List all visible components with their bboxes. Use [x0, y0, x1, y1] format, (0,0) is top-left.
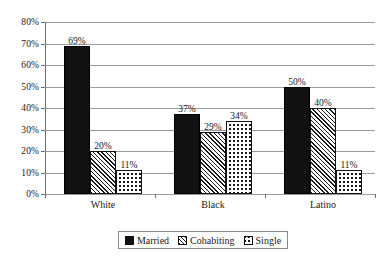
x-axis-tick-mark — [155, 194, 156, 198]
solid-black-swatch — [125, 236, 134, 245]
bar-black-single: 34% — [226, 121, 252, 194]
bar-value-label: 11% — [120, 160, 137, 170]
legend-label-single: Single — [256, 235, 282, 246]
y-axis-tick-label: 80% — [21, 17, 39, 27]
legend-label-cohabiting: Cohabiting — [190, 235, 234, 246]
y-axis-tick-mark — [41, 44, 45, 45]
x-axis-label-latino: Latino — [310, 199, 336, 210]
legend-item-cohabiting: Cohabiting — [178, 235, 234, 246]
y-axis-tick-mark — [41, 173, 45, 174]
bar-value-label: 40% — [314, 98, 331, 108]
legend-label-married: Married — [137, 235, 169, 246]
y-axis-tick-label: 50% — [21, 82, 39, 92]
gridline — [45, 194, 375, 195]
bar-white-cohabiting: 20% — [90, 151, 116, 194]
bar-chart: 0%10%20%30%40%50%60%70%80%69%20%11%37%29… — [0, 0, 392, 259]
bar-black-married: 37% — [174, 114, 200, 194]
legend-item-single: Single — [244, 235, 282, 246]
bar-black-cohabiting: 29% — [200, 132, 226, 194]
plot-area: 0%10%20%30%40%50%60%70%80%69%20%11%37%29… — [45, 22, 375, 194]
x-axis-tick-mark — [45, 194, 46, 198]
y-axis-tick-mark — [41, 65, 45, 66]
legend-item-married: Married — [125, 235, 169, 246]
bar-value-label: 11% — [340, 160, 357, 170]
y-axis-tick-label: 10% — [21, 168, 39, 178]
bar-value-label: 34% — [230, 111, 247, 121]
bar-group-latino: 50%40%11% — [284, 22, 362, 194]
diagonal-hatch-swatch — [178, 236, 187, 245]
x-axis-label-white: White — [91, 199, 115, 210]
bar-latino-married: 50% — [284, 87, 310, 195]
x-axis-tick-mark — [375, 194, 376, 198]
bar-value-label: 50% — [288, 77, 305, 87]
bar-value-label: 29% — [204, 122, 221, 132]
bar-group-black: 37%29%34% — [174, 22, 252, 194]
bar-white-single: 11% — [116, 170, 142, 194]
y-axis-tick-label: 0% — [26, 189, 39, 199]
y-axis-tick-label: 60% — [21, 60, 39, 70]
y-axis-tick-mark — [41, 151, 45, 152]
y-axis-tick-label: 20% — [21, 146, 39, 156]
bar-value-label: 20% — [94, 141, 111, 151]
bar-latino-cohabiting: 40% — [310, 108, 336, 194]
x-axis-label-black: Black — [201, 199, 224, 210]
bar-group-white: 69%20%11% — [64, 22, 142, 194]
y-axis-tick-mark — [41, 87, 45, 88]
bar-latino-single: 11% — [336, 170, 362, 194]
bar-white-married: 69% — [64, 46, 90, 194]
y-axis-tick-label: 40% — [21, 103, 39, 113]
y-axis-tick-label: 70% — [21, 39, 39, 49]
y-axis-tick-mark — [41, 22, 45, 23]
chart-legend: Married Cohabiting Single — [118, 231, 288, 249]
bar-value-label: 69% — [68, 36, 85, 46]
y-axis-tick-mark — [41, 130, 45, 131]
y-axis-tick-mark — [41, 108, 45, 109]
dotted-swatch — [244, 236, 253, 245]
x-axis-tick-mark — [265, 194, 266, 198]
y-axis-tick-label: 30% — [21, 125, 39, 135]
bar-value-label: 37% — [178, 104, 195, 114]
